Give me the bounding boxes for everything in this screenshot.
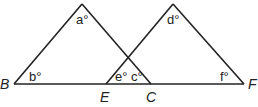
point-label-b: B [0,76,9,92]
point-label-c: C [146,89,157,105]
angle-label-f: f° [220,69,229,84]
angle-label-e: e° [115,69,127,84]
point-label-e: E [100,89,110,105]
angle-label-b: b° [29,69,41,84]
angle-label-d: d° [167,12,179,27]
angle-label-a: a° [76,12,88,27]
triangle-diagram: a° d° b° e° c° f° B E C F [0,0,258,107]
segment-apex-d-f [173,4,244,84]
angle-label-c: c° [131,69,143,84]
segment-b-apex-a [14,4,82,84]
point-label-f: F [248,76,258,92]
